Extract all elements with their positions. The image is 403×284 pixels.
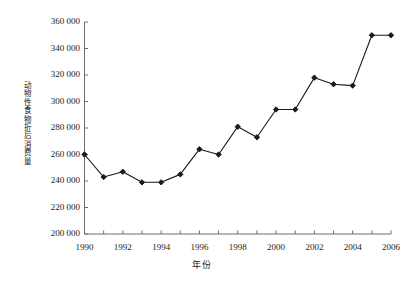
x-axis-tick-label: 1998 bbox=[221, 243, 255, 252]
x-axis-tick-label: 1990 bbox=[68, 243, 102, 252]
x-axis-tick-label: 2000 bbox=[259, 243, 293, 252]
x-axis-tick-label: 1992 bbox=[106, 243, 140, 252]
x-axis-tick-label: 2002 bbox=[297, 243, 331, 252]
x-axis-title: 年份 bbox=[0, 258, 403, 271]
x-axis-tick-label: 1996 bbox=[182, 243, 216, 252]
x-axis-tick-label: 2004 bbox=[336, 243, 370, 252]
chart-figure: ········· ····· ····· ········· ········… bbox=[0, 0, 403, 284]
x-axis-tick-label: 2006 bbox=[374, 243, 403, 252]
x-axis-tick-labels: 199019921994199619982000200220042006 bbox=[0, 0, 403, 284]
x-axis-tick-label: 1994 bbox=[144, 243, 178, 252]
